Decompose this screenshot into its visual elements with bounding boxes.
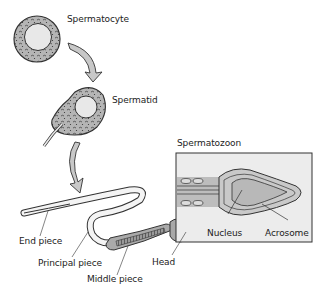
middle-piece (106, 224, 172, 250)
label-acrosome: Acrosome (265, 228, 309, 238)
label-head: Head (152, 257, 175, 267)
label-principal-piece: Principal piece (38, 258, 102, 268)
label-spermatocyte: Spermatocyte (67, 14, 129, 24)
spermatid-cell (44, 88, 105, 146)
label-middle-piece: Middle piece (87, 274, 143, 284)
label-nucleus: Nucleus (207, 228, 242, 238)
curved-arrow-icon (68, 43, 102, 82)
label-end-piece: End piece (19, 236, 62, 246)
label-spermatozoon: Spermatozoon (177, 138, 241, 148)
spermatocyte-cell (14, 16, 60, 62)
label-spermatid: Spermatid (112, 95, 158, 105)
spermatogenesis-diagram (0, 0, 326, 300)
curved-arrow-icon (70, 142, 84, 193)
